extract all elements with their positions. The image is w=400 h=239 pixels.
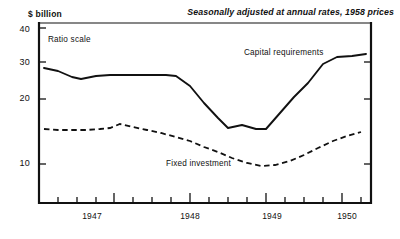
x-axis-ticks — [58, 193, 361, 203]
axes-frame — [39, 22, 372, 204]
chart-figure: $ billion Seasonally adjusted at annual … — [0, 0, 400, 239]
series-line-fixed-investment — [44, 124, 361, 166]
y-axis-ticks — [39, 28, 371, 164]
plot-canvas — [0, 0, 400, 239]
series-line-capital-requirements — [44, 54, 366, 129]
